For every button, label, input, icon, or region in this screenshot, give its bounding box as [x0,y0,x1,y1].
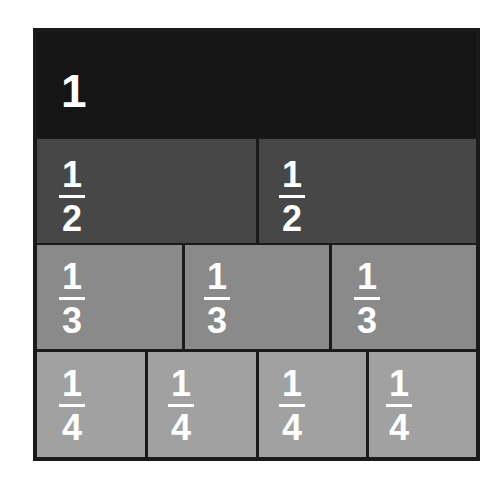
half-bar-1: 1 2 [37,139,256,243]
third-bar-3: 1 3 [332,245,476,349]
whole-bar: 1 [37,32,476,137]
fraction-label: 1 4 [386,367,412,445]
denominator: 2 [282,202,302,236]
third-bar-2: 1 3 [185,245,329,349]
fraction-label: 1 3 [204,260,230,338]
fraction-label: 1 4 [59,367,85,445]
quarter-bar-4: 1 4 [369,352,476,457]
quarter-bar-3: 1 4 [259,352,366,457]
third-bar-1: 1 3 [37,245,182,349]
denominator: 2 [62,202,82,236]
fraction-label: 1 3 [354,260,380,338]
numerator: 1 [282,158,302,192]
whole-label: 1 [61,68,87,114]
fraction-label: 1 2 [59,158,85,236]
quarter-bar-1: 1 4 [37,352,145,457]
denominator: 3 [207,304,227,338]
numerator: 1 [207,260,227,294]
numerator: 1 [62,260,82,294]
fraction-label: 1 2 [279,158,305,236]
denominator: 4 [171,411,191,445]
denominator: 3 [357,304,377,338]
fraction-label: 1 3 [59,260,85,338]
denominator: 4 [282,411,302,445]
numerator: 1 [171,367,191,401]
numerator: 1 [62,367,82,401]
numerator: 1 [357,260,377,294]
fraction-bar-diagram: 1 1 2 1 2 1 3 1 3 1 3 [33,28,480,461]
numerator: 1 [389,367,409,401]
numerator: 1 [282,367,302,401]
denominator: 4 [389,411,409,445]
denominator: 4 [62,411,82,445]
fraction-label: 1 4 [279,367,305,445]
denominator: 3 [62,304,82,338]
fraction-label: 1 4 [168,367,194,445]
quarter-bar-2: 1 4 [148,352,256,457]
half-bar-2: 1 2 [259,139,476,243]
numerator: 1 [62,158,82,192]
